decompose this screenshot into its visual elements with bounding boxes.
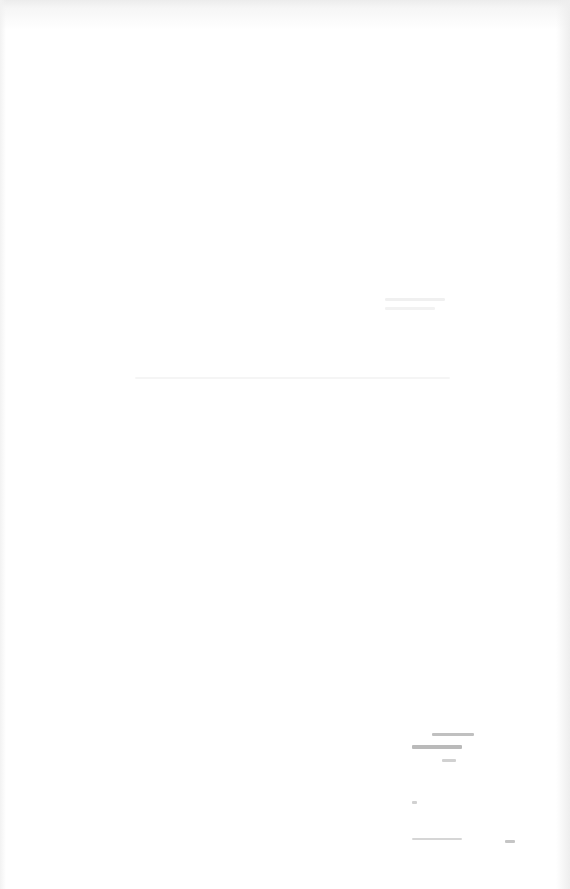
- ink-mark: [442, 759, 456, 762]
- ink-mark: [432, 733, 474, 736]
- page-right-edge-shadow: [556, 0, 570, 889]
- faded-text-trace: [385, 307, 435, 310]
- ink-mark: [412, 838, 462, 840]
- ink-mark: [412, 745, 462, 749]
- ink-mark: [505, 840, 515, 843]
- scanned-page: [0, 0, 570, 889]
- faded-text-trace: [135, 377, 450, 379]
- ink-mark: [412, 801, 417, 804]
- page-left-edge-shadow: [0, 0, 6, 889]
- handwritten-marginalia: [412, 740, 512, 860]
- faded-text-trace: [385, 298, 445, 301]
